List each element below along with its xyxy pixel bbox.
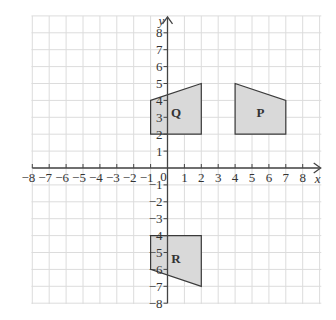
x-tick-label: −7	[38, 170, 52, 185]
x-tick-label: −2	[123, 170, 137, 185]
y-tick-label: 5	[156, 76, 163, 91]
y-tick-label: 6	[156, 59, 163, 74]
y-tick-label: −5	[149, 245, 163, 260]
y-tick-label: −6	[149, 262, 163, 277]
coordinate-plane: −8−7−6−5−4−3−2−11234567887654321−1−2−3−4…	[0, 0, 336, 320]
x-tick-label: −6	[55, 170, 69, 185]
y-tick-label: −3	[149, 211, 163, 226]
x-tick-label: −8	[21, 170, 35, 185]
shape-label-q: Q	[171, 105, 181, 120]
x-tick-label: −4	[89, 170, 103, 185]
x-tick-label: 7	[283, 170, 290, 185]
x-axis-label: x	[314, 171, 321, 186]
x-tick-label: 2	[198, 170, 205, 185]
y-tick-label: 2	[156, 127, 163, 142]
x-tick-label: 3	[215, 170, 222, 185]
y-tick-label: −2	[149, 194, 163, 209]
y-tick-label: −7	[149, 279, 163, 294]
x-tick-label: 5	[249, 170, 256, 185]
y-tick-label: 4	[156, 93, 163, 108]
x-tick-label: −5	[72, 170, 86, 185]
x-tick-label: 4	[232, 170, 239, 185]
y-tick-label: 3	[156, 110, 163, 125]
y-tick-label: −4	[149, 228, 163, 243]
origin-label: 0	[160, 169, 167, 184]
y-axis-label: y	[157, 13, 165, 28]
x-tick-label: 8	[299, 170, 306, 185]
y-tick-label: 7	[156, 42, 163, 57]
x-tick-label: 1	[181, 170, 188, 185]
y-tick-label: −8	[149, 296, 163, 311]
y-tick-label: 1	[156, 144, 163, 159]
x-tick-label: −3	[106, 170, 120, 185]
shape-label-r: R	[171, 251, 181, 266]
coordinate-grid-figure: −8−7−6−5−4−3−2−11234567887654321−1−2−3−4…	[0, 0, 336, 320]
shape-label-p: P	[256, 105, 264, 120]
x-tick-label: 6	[266, 170, 273, 185]
